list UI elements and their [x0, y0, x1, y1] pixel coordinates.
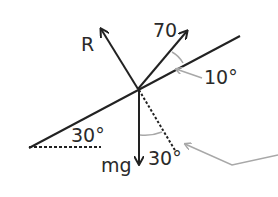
incline-angle-label: 30°: [71, 124, 105, 146]
force-diagram: R 70 10° 30° mg 30°: [0, 0, 278, 197]
applied-angle-label: 10°: [204, 66, 238, 88]
weight-angle-label: 30°: [148, 147, 182, 169]
perpendicular-dotted-line: [139, 90, 176, 152]
applied-force-label: 70: [153, 19, 177, 41]
weight-label: mg: [101, 154, 132, 176]
annotation-arrow-10deg: [176, 69, 202, 78]
normal-force-arrow: [101, 29, 138, 89]
normal-force-label: R: [81, 33, 94, 55]
applied-angle-arc: [172, 52, 183, 63]
incline-line: [29, 36, 240, 148]
weight-angle-arc: [140, 132, 162, 135]
annotation-arrow-30deg: [185, 144, 278, 165]
